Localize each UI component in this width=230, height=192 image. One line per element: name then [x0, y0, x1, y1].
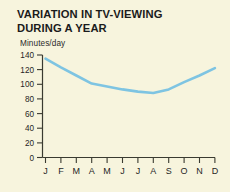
line-chart-plot	[0, 0, 230, 192]
y-axis-ticks	[37, 55, 43, 158]
y-tick-label: 60	[12, 109, 34, 118]
x-axis-ticks	[46, 158, 215, 164]
y-tick-label: 80	[12, 94, 34, 103]
y-tick-label: 20	[12, 138, 34, 147]
x-tick-label: J	[131, 166, 145, 176]
x-tick-label: O	[177, 166, 191, 176]
x-tick-label: A	[85, 166, 99, 176]
x-tick-label: F	[54, 166, 68, 176]
y-tick-label: 100	[12, 80, 34, 89]
x-tick-label: N	[193, 166, 207, 176]
x-tick-label: D	[208, 166, 222, 176]
data-series-line	[46, 59, 215, 93]
x-tick-label: J	[116, 166, 130, 176]
x-tick-label: J	[39, 166, 53, 176]
y-tick-label: 40	[12, 124, 34, 133]
x-tick-label: M	[100, 166, 114, 176]
chart-figure: VARIATION IN TV-VIEWING DURING A YEAR Mi…	[0, 0, 230, 192]
x-tick-label: S	[162, 166, 176, 176]
y-tick-label: 120	[12, 65, 34, 74]
y-tick-label: 0	[12, 153, 34, 162]
x-tick-label: M	[69, 166, 83, 176]
x-tick-label: A	[146, 166, 160, 176]
y-tick-label: 140	[12, 51, 34, 60]
